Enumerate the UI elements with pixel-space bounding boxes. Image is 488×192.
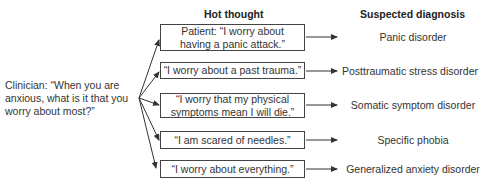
thought-box-trauma: “I worry about a past trauma.” — [160, 62, 305, 79]
thought-box-everything: “I worry about everything.” — [160, 160, 305, 178]
diagnosis-ptsd: Posttraumatic stress disorder — [335, 65, 485, 77]
diagnosis-panic-disorder: Panic disorder — [338, 31, 488, 43]
clinician-question: Clinician: “When you are anxious, what i… — [5, 79, 140, 118]
thought-box-somatic: “I worry that my physical symptoms mean … — [160, 93, 305, 118]
diagnosis-specific-phobia: Specific phobia — [338, 134, 488, 146]
arrow-to-thought-2 — [139, 72, 159, 98]
diagnosis-somatic-symptom: Somatic symptom disorder — [338, 99, 488, 111]
hot-thought-header: Hot thought — [204, 8, 263, 20]
arrow-to-thought-1 — [139, 40, 159, 98]
arrow-to-thought-5 — [139, 98, 156, 168]
diagnosis-gad: Generalized anxiety disorder — [338, 163, 488, 175]
thought-box-needles: “I am scared of needles.” — [160, 131, 305, 149]
suspected-diagnosis-header: Suspected diagnosis — [360, 8, 465, 20]
thought-box-panic: Patient: “I worry about having a panic a… — [160, 24, 305, 51]
